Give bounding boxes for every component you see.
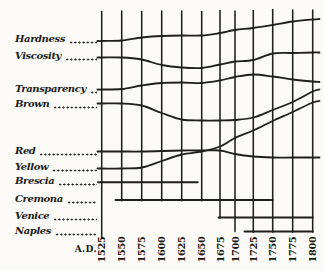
year-label-1600: 1600 (156, 236, 167, 263)
curve-transparency (98, 74, 320, 89)
year-label-1675: 1675 (215, 236, 226, 263)
year-label-1800: 1800 (307, 236, 318, 263)
year-label-1625: 1625 (176, 236, 187, 263)
year-label-1650: 1650 (196, 236, 207, 263)
varnish-history-chart: 1525155015751600162516501675170017251750… (0, 0, 324, 271)
curve-viscosity (98, 52, 320, 68)
year-label-1550: 1550 (116, 236, 127, 263)
curve-yellow (98, 101, 320, 169)
year-label-1575: 1575 (136, 236, 147, 263)
curve-brown (98, 90, 320, 121)
year-label-1725: 1725 (248, 236, 259, 263)
curve-hardness (98, 19, 320, 41)
year-label-1750: 1750 (267, 236, 278, 263)
year-label-1700: 1700 (230, 236, 241, 263)
figure-page: Hardness Viscosity Transparency Brown Re… (0, 0, 324, 271)
year-label-1775: 1775 (287, 236, 298, 263)
curve-red (98, 150, 320, 157)
year-label-1525: 1525 (96, 236, 107, 263)
